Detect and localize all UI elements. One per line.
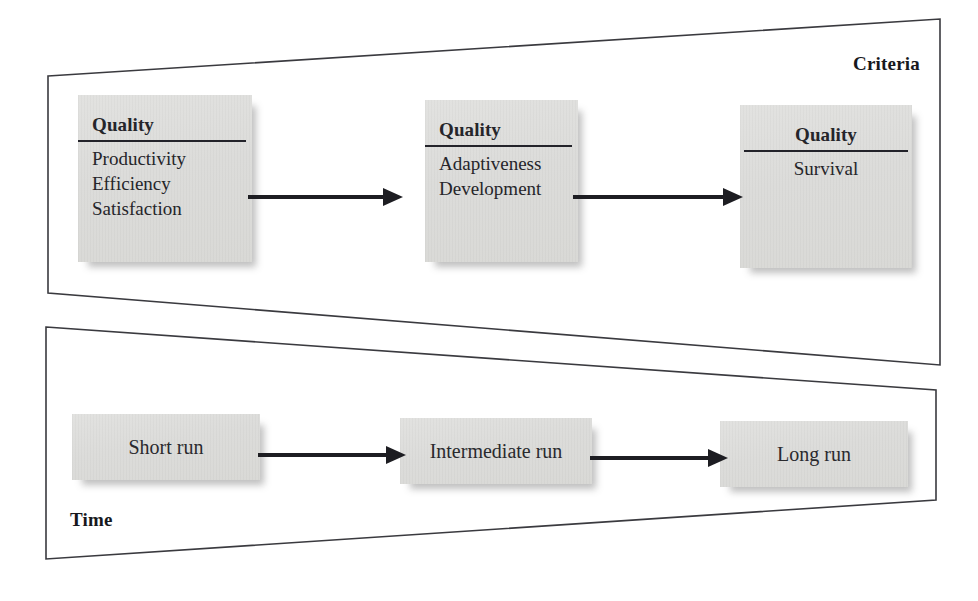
criteria-node-items: Productivity Efficiency Satisfaction: [78, 142, 252, 222]
arrow-head-icon: [386, 446, 406, 464]
criteria-item: Survival: [740, 156, 912, 181]
criteria-node-intermediate-run[interactable]: Quality Adaptiveness Development: [425, 100, 578, 262]
criteria-item: Adaptiveness: [439, 151, 566, 176]
criteria-node-title: Quality: [78, 115, 252, 140]
criteria-node-short-run[interactable]: Quality Productivity Efficiency Satisfac…: [78, 95, 252, 262]
criteria-item: Development: [439, 176, 566, 201]
time-node-label: Short run: [129, 436, 204, 459]
time-node-label: Intermediate run: [430, 440, 563, 463]
diagram-canvas: Criteria Time Quality Productivity Effic…: [0, 0, 978, 601]
criteria-node-title: Quality: [425, 120, 578, 145]
time-panel-caption: Time: [70, 509, 113, 531]
criteria-item: Productivity: [92, 146, 240, 171]
arrow-shaft: [258, 453, 388, 457]
criteria-panel-caption: Criteria: [853, 53, 920, 75]
arrow-shaft: [248, 195, 385, 199]
time-node-intermediate-run[interactable]: Intermediate run: [400, 418, 592, 484]
arrow-shaft: [590, 456, 710, 460]
arrow-head-icon: [383, 188, 403, 206]
criteria-node-items: Adaptiveness Development: [425, 147, 578, 202]
criteria-node-title: Quality: [740, 125, 912, 150]
criteria-node-long-run[interactable]: Quality Survival: [740, 105, 912, 268]
arrow-shaft: [573, 195, 725, 199]
arrow-head-icon: [708, 449, 728, 467]
criteria-item: Satisfaction: [92, 196, 240, 221]
criteria-item: Efficiency: [92, 171, 240, 196]
time-node-label: Long run: [777, 443, 851, 466]
time-node-short-run[interactable]: Short run: [72, 414, 260, 480]
arrow-head-icon: [723, 188, 743, 206]
criteria-node-items: Survival: [740, 152, 912, 181]
time-node-long-run[interactable]: Long run: [720, 421, 908, 487]
panel-outlines: [0, 0, 978, 601]
